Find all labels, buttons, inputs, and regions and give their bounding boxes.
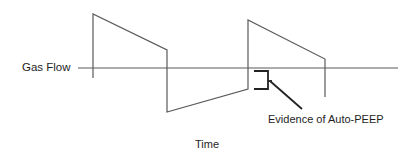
- auto-peep-bracket: [254, 71, 268, 89]
- gas-flow-axis-label: Gas Flow: [22, 62, 71, 74]
- flow-time-diagram: [0, 0, 419, 158]
- flow-waveform: [93, 14, 325, 112]
- time-axis-label: Time: [195, 139, 219, 150]
- annotation-pointer-line: [270, 81, 302, 109]
- auto-peep-annotation: Evidence of Auto-PEEP: [268, 114, 384, 125]
